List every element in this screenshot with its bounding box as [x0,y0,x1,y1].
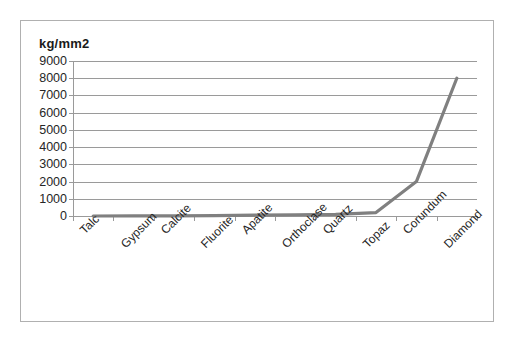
y-axis-tick-label: 6000 [39,106,67,120]
y-axis-tick-label: 1000 [39,192,67,206]
y-axis-tick-label: 3000 [39,157,67,171]
y-axis-tick-label: 0 [60,209,67,223]
y-axis-tick-label: 9000 [39,54,67,68]
y-axis-unit-label: kg/mm2 [39,36,89,51]
x-axis-category-label: Fluorite [198,213,236,251]
y-axis-tick-label: 2000 [39,175,67,189]
y-axis-tick-label: 4000 [39,140,67,154]
y-axis-tick-label: 8000 [39,71,67,85]
chart-frame: kg/mm2 010002000300040005000600070008000… [20,20,494,322]
x-axis-category-label: Topaz [360,218,393,251]
plot-area: 0100020003000400050006000700080009000 [73,61,477,216]
y-axis-tick-label: 7000 [39,88,67,102]
y-axis-tick-label: 5000 [39,123,67,137]
data-series-line [73,61,477,216]
x-axis-category-labels: TalcGypsumCalciteFluoriteApatiteOrthocla… [73,217,477,317]
